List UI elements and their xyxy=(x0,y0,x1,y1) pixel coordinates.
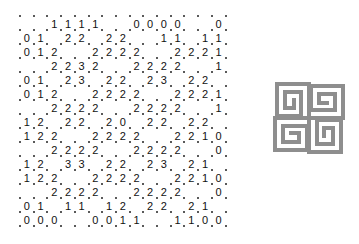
puzzle-cell[interactable] xyxy=(143,45,157,59)
puzzle-cell[interactable]: 2 xyxy=(198,87,212,101)
puzzle-cell[interactable]: 1 xyxy=(171,213,185,227)
puzzle-cell[interactable] xyxy=(130,157,144,171)
puzzle-cell[interactable] xyxy=(20,17,34,31)
puzzle-cell[interactable] xyxy=(34,17,48,31)
puzzle-cell[interactable]: 2 xyxy=(171,185,185,199)
puzzle-cell[interactable] xyxy=(184,59,198,73)
puzzle-cell[interactable]: 2 xyxy=(102,31,116,45)
puzzle-cell[interactable] xyxy=(75,213,89,227)
puzzle-cell[interactable]: 1 xyxy=(89,17,103,31)
puzzle-cell[interactable]: 1 xyxy=(116,213,130,227)
puzzle-cell[interactable] xyxy=(102,143,116,157)
puzzle-cell[interactable]: 1 xyxy=(212,101,226,115)
puzzle-cell[interactable]: 1 xyxy=(34,199,48,213)
puzzle-cell[interactable] xyxy=(184,185,198,199)
puzzle-cell[interactable]: 2 xyxy=(75,31,89,45)
puzzle-board[interactable]: 1111000000122221111012222222212232222210… xyxy=(0,0,250,244)
puzzle-cell[interactable]: 0 xyxy=(212,185,226,199)
puzzle-cell[interactable]: 0 xyxy=(212,171,226,185)
puzzle-cell[interactable] xyxy=(116,101,130,115)
puzzle-cell[interactable]: 1 xyxy=(20,171,34,185)
puzzle-cell[interactable]: 2 xyxy=(102,171,116,185)
puzzle-cell[interactable]: 2 xyxy=(184,115,198,129)
puzzle-cell[interactable] xyxy=(89,199,103,213)
puzzle-cell[interactable]: 2 xyxy=(47,87,61,101)
puzzle-cell[interactable] xyxy=(61,129,75,143)
puzzle-cell[interactable] xyxy=(61,45,75,59)
puzzle-cell[interactable]: 1 xyxy=(198,129,212,143)
puzzle-cell[interactable] xyxy=(143,31,157,45)
puzzle-cell[interactable] xyxy=(116,185,130,199)
puzzle-cell[interactable]: 3 xyxy=(75,59,89,73)
puzzle-cell[interactable] xyxy=(116,143,130,157)
puzzle-cell[interactable]: 2 xyxy=(143,185,157,199)
puzzle-cell[interactable] xyxy=(184,101,198,115)
puzzle-cell[interactable]: 2 xyxy=(130,59,144,73)
puzzle-cell[interactable]: 2 xyxy=(116,45,130,59)
puzzle-cell[interactable]: 2 xyxy=(157,185,171,199)
puzzle-cell[interactable]: 2 xyxy=(116,157,130,171)
puzzle-cell[interactable]: 2 xyxy=(116,31,130,45)
puzzle-cell[interactable]: 1 xyxy=(34,87,48,101)
puzzle-cell[interactable] xyxy=(61,213,75,227)
puzzle-cell[interactable] xyxy=(157,129,171,143)
puzzle-cell[interactable]: 2 xyxy=(34,129,48,143)
puzzle-cell[interactable]: 2 xyxy=(89,59,103,73)
puzzle-cell[interactable] xyxy=(20,101,34,115)
puzzle-cell[interactable]: 2 xyxy=(61,73,75,87)
puzzle-cell[interactable]: 2 xyxy=(47,59,61,73)
puzzle-cell[interactable]: 2 xyxy=(157,143,171,157)
puzzle-cell[interactable] xyxy=(198,143,212,157)
puzzle-cell[interactable] xyxy=(116,17,130,31)
puzzle-cell[interactable]: 1 xyxy=(212,87,226,101)
puzzle-cell[interactable]: 0 xyxy=(130,17,144,31)
puzzle-cell[interactable] xyxy=(47,73,61,87)
puzzle-cell[interactable]: 3 xyxy=(157,73,171,87)
puzzle-cell[interactable] xyxy=(47,115,61,129)
puzzle-cell[interactable]: 2 xyxy=(171,129,185,143)
puzzle-cell[interactable] xyxy=(61,87,75,101)
puzzle-cell[interactable]: 2 xyxy=(157,101,171,115)
puzzle-cell[interactable] xyxy=(47,31,61,45)
puzzle-cell[interactable]: 2 xyxy=(116,129,130,143)
puzzle-cell[interactable]: 2 xyxy=(143,143,157,157)
puzzle-cell[interactable]: 2 xyxy=(102,45,116,59)
puzzle-cell[interactable]: 0 xyxy=(20,45,34,59)
puzzle-cell[interactable] xyxy=(116,59,130,73)
puzzle-cell[interactable] xyxy=(102,185,116,199)
puzzle-cell[interactable]: 1 xyxy=(20,115,34,129)
puzzle-cell[interactable] xyxy=(157,171,171,185)
puzzle-cell[interactable]: 3 xyxy=(157,157,171,171)
puzzle-cell[interactable] xyxy=(171,157,185,171)
puzzle-cell[interactable] xyxy=(171,115,185,129)
puzzle-cell[interactable]: 2 xyxy=(143,199,157,213)
puzzle-cell[interactable] xyxy=(171,73,185,87)
puzzle-cell[interactable]: 1 xyxy=(61,17,75,31)
puzzle-cell[interactable] xyxy=(89,115,103,129)
puzzle-cell[interactable]: 2 xyxy=(171,171,185,185)
puzzle-cell[interactable]: 0 xyxy=(116,115,130,129)
puzzle-cell[interactable]: 2 xyxy=(89,45,103,59)
puzzle-cell[interactable] xyxy=(89,31,103,45)
puzzle-cell[interactable]: 2 xyxy=(143,115,157,129)
puzzle-cell[interactable]: 0 xyxy=(102,213,116,227)
puzzle-cell[interactable]: 2 xyxy=(89,185,103,199)
puzzle-cell[interactable]: 2 xyxy=(34,115,48,129)
puzzle-cell[interactable]: 1 xyxy=(198,199,212,213)
puzzle-cell[interactable]: 2 xyxy=(171,101,185,115)
puzzle-cell[interactable]: 0 xyxy=(212,213,226,227)
puzzle-cell[interactable]: 2 xyxy=(75,101,89,115)
puzzle-cell[interactable] xyxy=(47,199,61,213)
puzzle-cell[interactable] xyxy=(34,185,48,199)
puzzle-cell[interactable]: 2 xyxy=(61,115,75,129)
puzzle-cell[interactable]: 2 xyxy=(75,143,89,157)
puzzle-cell[interactable] xyxy=(61,171,75,185)
puzzle-cell[interactable]: 1 xyxy=(75,199,89,213)
puzzle-cell[interactable] xyxy=(130,31,144,45)
puzzle-cell[interactable] xyxy=(130,199,144,213)
puzzle-cell[interactable] xyxy=(143,213,157,227)
puzzle-cell[interactable] xyxy=(212,73,226,87)
puzzle-cell[interactable]: 1 xyxy=(75,17,89,31)
puzzle-cell[interactable]: 0 xyxy=(212,17,226,31)
puzzle-cell[interactable]: 1 xyxy=(184,213,198,227)
